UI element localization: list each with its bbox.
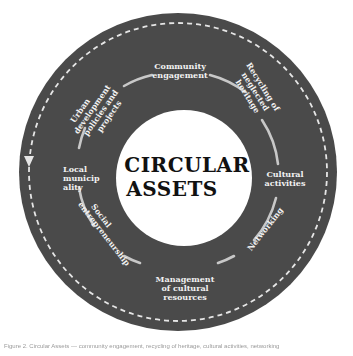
figure-caption: Figure 2. Circular Assets — community en… bbox=[4, 343, 324, 351]
node-cultural-activities: Cultural activities bbox=[265, 169, 306, 188]
node-community-engagement: Community engagement bbox=[152, 61, 208, 80]
svg-text:ality: ality bbox=[63, 182, 83, 192]
center-title-line-2: ASSETS bbox=[125, 177, 218, 201]
svg-text:engagement: engagement bbox=[152, 70, 208, 80]
svg-text:resources: resources bbox=[163, 292, 207, 302]
node-management-of-cultural-resources: Management of cultural resources bbox=[156, 274, 215, 302]
center-title-line-1: CIRCULAR bbox=[124, 153, 249, 177]
svg-text:activities: activities bbox=[265, 178, 306, 188]
circular-assets-diagram: CIRCULAR ASSETS Community engagement Rec… bbox=[0, 0, 353, 356]
